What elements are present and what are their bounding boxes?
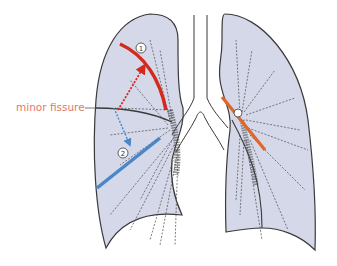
left-lung (219, 14, 315, 250)
svg-text:1: 1 (139, 45, 143, 53)
marker-1-badge: 1 (136, 43, 146, 53)
left-hilum-circle (234, 109, 242, 117)
marker-2-badge: 2 (118, 148, 128, 158)
minor-fissure-label: minor fissure (16, 102, 85, 113)
svg-text:2: 2 (121, 150, 125, 158)
lung-diagram: 1 2 minor fissure (0, 0, 337, 266)
